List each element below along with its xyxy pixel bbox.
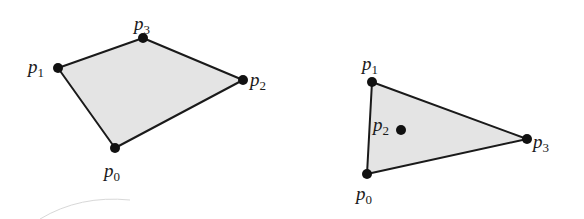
point-p2-marker [396,125,406,135]
point-p0-label: p0 [354,183,372,207]
figure-quadrilateral: p0p1p2p3 [26,13,266,184]
point-p1-label: p1 [26,56,44,80]
point-p1-marker [53,63,63,73]
point-p2-marker [238,75,248,85]
point-p1-marker [367,77,377,87]
figure-triangle: p0p1p2p3 [354,53,549,207]
point-p0-marker [362,169,372,179]
point-p0-label: p0 [102,160,120,184]
point-p1-label: p1 [360,53,378,77]
point-p0-marker [110,143,120,153]
background-arc [40,199,130,219]
point-p3-marker [522,134,532,144]
point-p3-label: p3 [531,131,549,155]
quadrilateral-shape [58,38,243,148]
point-p2-label: p2 [248,69,266,93]
point-p3-label: p3 [132,13,150,37]
triangle-shape [367,82,527,174]
diagram-canvas: p0p1p2p3 p0p1p2p3 [0,0,584,219]
